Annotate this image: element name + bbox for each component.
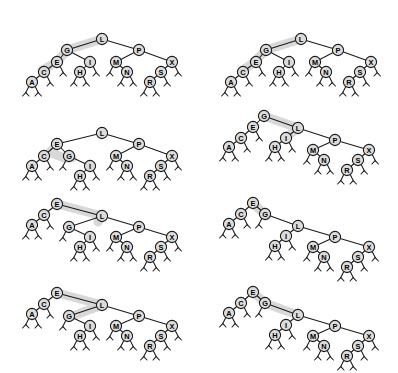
tree-node-A: A	[26, 219, 37, 230]
node-circle	[318, 251, 329, 262]
null-link	[309, 66, 312, 72]
tree-node-X: X	[363, 241, 374, 252]
null-link	[35, 86, 38, 92]
null-link	[47, 83, 53, 86]
node-circle	[74, 330, 85, 341]
node-circle	[84, 320, 95, 331]
tree-node-M: M	[307, 330, 318, 341]
null-link	[60, 327, 66, 330]
null-link	[278, 158, 284, 161]
node-circle	[110, 150, 121, 161]
null-link	[93, 337, 99, 340]
null-link	[83, 83, 89, 86]
tree-node-S: S	[354, 66, 365, 77]
null-link	[153, 350, 156, 356]
null-link	[329, 83, 335, 86]
node-circle	[133, 221, 144, 232]
null-link	[304, 258, 310, 261]
null-link	[93, 73, 99, 76]
node-circle	[74, 170, 85, 181]
null-link	[153, 93, 159, 96]
tree-node-C: C	[38, 66, 49, 77]
null-link	[83, 347, 89, 350]
null-link	[175, 248, 181, 251]
null-link	[35, 170, 38, 176]
node-circle	[280, 319, 291, 330]
tree-node-C: C	[235, 208, 246, 219]
tree-node-C: C	[38, 150, 49, 161]
tree-node-P: P	[133, 138, 144, 149]
node-circle	[144, 251, 155, 262]
tree-node-P: P	[332, 44, 343, 55]
null-link	[232, 151, 235, 157]
null-link	[220, 158, 226, 161]
tree-node-G: G	[259, 297, 270, 308]
tree-node-N: N	[121, 160, 132, 171]
node-circle	[38, 150, 49, 161]
node-circle	[133, 44, 144, 55]
null-link	[141, 357, 147, 360]
null-link	[60, 167, 66, 170]
null-link	[144, 180, 147, 186]
tree-node-L: L	[96, 127, 107, 138]
null-link	[282, 76, 285, 82]
node-circle	[225, 76, 236, 87]
node-circle	[51, 138, 62, 149]
tree-node-P: P	[329, 231, 340, 242]
tree-node-A: A	[26, 308, 37, 319]
tree-node-L: L	[292, 220, 303, 231]
tree-node-E: E	[51, 198, 62, 209]
null-link	[338, 181, 344, 184]
node-circle	[96, 33, 107, 44]
tree-node-R: R	[144, 251, 155, 262]
tree-node-S: S	[352, 340, 363, 351]
node-circle	[155, 330, 166, 341]
node-circle	[63, 150, 74, 161]
null-link	[266, 257, 272, 260]
tree-node-M: M	[110, 231, 121, 242]
tree-node-R: R	[341, 350, 352, 361]
tree-node-G: G	[258, 110, 269, 121]
null-link	[47, 219, 50, 225]
tree-node-S: S	[352, 154, 363, 165]
node-circle	[318, 154, 329, 165]
node-circle	[235, 208, 246, 219]
tree-node-X: X	[166, 56, 177, 67]
null-link	[47, 160, 50, 166]
node-circle	[144, 340, 155, 351]
null-link	[363, 76, 366, 82]
panel-5: ECALGIHPMNXSR	[2, 189, 198, 282]
node-circle	[133, 310, 144, 321]
tree-node-X: X	[166, 320, 177, 331]
tree-node-G: G	[260, 44, 271, 55]
tree-node-E: E	[247, 286, 258, 297]
null-link	[110, 330, 113, 336]
null-link	[35, 93, 41, 96]
tree-node-H: H	[74, 241, 85, 252]
null-link	[121, 170, 124, 176]
null-link	[361, 350, 364, 356]
tree-node-M: M	[110, 150, 121, 161]
node-circle	[26, 160, 37, 171]
tree-node-N: N	[121, 66, 132, 77]
null-link	[130, 340, 133, 346]
tree-node-N: N	[318, 154, 329, 165]
tree-node-H: H	[74, 330, 85, 341]
null-link	[350, 360, 353, 366]
null-link	[315, 268, 321, 271]
node-circle	[38, 209, 49, 220]
node-circle	[352, 340, 363, 351]
null-link	[93, 66, 96, 72]
null-link	[256, 314, 262, 317]
null-link	[144, 86, 147, 92]
tree-node-L: L	[96, 33, 107, 44]
node-circle	[273, 66, 284, 77]
tree-node-I: I	[84, 231, 95, 242]
tree-node-H: H	[269, 329, 280, 340]
null-link	[341, 360, 344, 366]
null-link	[110, 160, 113, 166]
null-link	[153, 357, 159, 360]
null-link	[93, 170, 96, 176]
node-circle	[292, 122, 303, 133]
null-link	[47, 315, 53, 318]
